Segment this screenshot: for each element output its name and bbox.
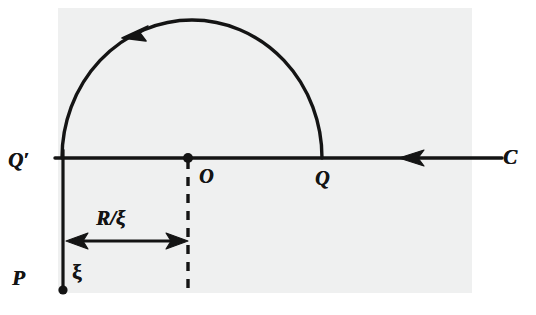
label-xi: ξ	[72, 262, 81, 283]
contour-diagram-figure: Q′ O Q C P ξ R/ξ	[0, 0, 536, 315]
label-contour-c: C	[503, 147, 517, 168]
label-p: P	[12, 268, 25, 289]
label-radius-over-xi: R/ξ	[96, 208, 125, 229]
label-q: Q	[315, 168, 329, 188]
counterclockwise-arrow-icon	[122, 26, 148, 41]
point-P-marker	[58, 285, 67, 294]
label-origin: O	[199, 166, 213, 186]
label-q-prime: Q′	[8, 150, 29, 171]
semicircular-arc	[62, 20, 322, 158]
